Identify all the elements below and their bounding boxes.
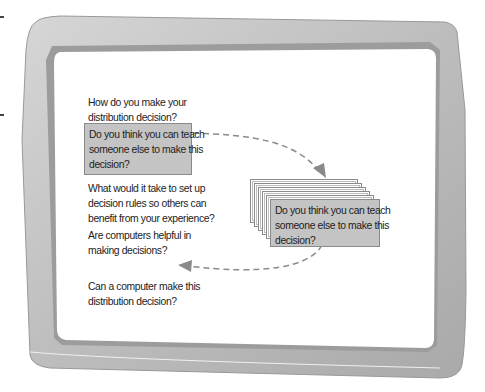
question-1: How do you make your distribution decisi… (88, 95, 187, 125)
stack-front-card: Do you think you can teach someone else … (270, 199, 380, 247)
question-5: Can a computer make this distribution de… (88, 279, 200, 309)
monitor-frame (0, 0, 485, 392)
question-3: What would it take to set up decision ru… (88, 181, 214, 226)
stack-card-text: Do you think you can teach someone else … (275, 203, 390, 248)
question-4: Are computers helpful in making decision… (88, 228, 191, 258)
highlighted-question-box: Do you think you can teach someone else … (84, 123, 192, 175)
question-2: Do you think you can teach someone else … (89, 127, 204, 172)
